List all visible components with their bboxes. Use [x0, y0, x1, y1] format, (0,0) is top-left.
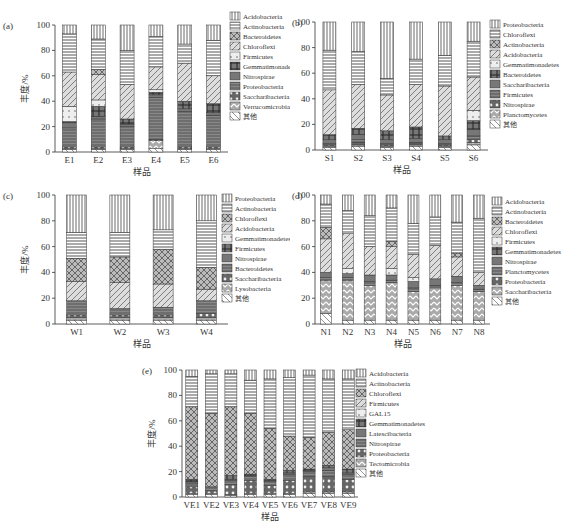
segment-其他 [186, 494, 198, 497]
segment-acidobacteria [178, 25, 192, 44]
x-axis-label: 样品 [133, 166, 151, 177]
bar-N3 [364, 195, 375, 324]
segment-其他 [149, 148, 163, 152]
legend-label: Chloroflexi [235, 215, 267, 223]
x-tick-label: S6 [469, 153, 479, 163]
bar-N7 [452, 195, 463, 324]
legend-label: 其他 [235, 294, 249, 303]
segment-chloroflexi [409, 59, 422, 85]
segment-其他 [205, 494, 217, 497]
legend-swatch [492, 197, 502, 205]
segment-acidobacteria [205, 370, 217, 374]
segment-planctomycetes [467, 142, 480, 145]
bar-N4 [386, 195, 397, 324]
legend-swatch [222, 254, 232, 262]
segment-actinobacteria [408, 223, 419, 254]
segment-其他 [264, 494, 276, 497]
legend-label: Gemmatimonadetes [235, 235, 290, 243]
segment-acidobacteria [244, 370, 256, 380]
panel-label: (e) [142, 366, 152, 376]
chart-panel-c: (c)020406080100丰度/%W1W2W3W4样品Proteobacte… [0, 180, 290, 362]
legend-label: Chloroflexi [369, 390, 401, 398]
segment-bacteroidetes [67, 301, 87, 315]
legend-swatch [490, 80, 500, 88]
segment-bacteroidetes [110, 309, 130, 315]
legend-label: Acidobacteria [369, 370, 409, 378]
segment-saccharibacteria [342, 280, 353, 320]
segment-acidobacteria [342, 370, 354, 379]
segment-saccharibacteria [381, 140, 394, 144]
segment-proteobacteria [323, 22, 336, 50]
segment-chloroflexi [153, 249, 173, 284]
segment-verrucomicrobia [149, 141, 163, 149]
legend-swatch [490, 50, 500, 58]
legend-label: Chloroflexi [503, 31, 535, 39]
x-tick-label: S4 [411, 153, 421, 163]
x-tick-label: N6 [430, 327, 441, 337]
y-tick-label: 40 [41, 96, 51, 106]
bar-E1 [62, 25, 76, 152]
segment-planctomycetes [386, 280, 397, 283]
segment-gemmatimonadetes [149, 92, 163, 95]
legend-label: Bacteroidetes [235, 265, 273, 273]
legend-label: Nitrospirae [369, 440, 401, 448]
segment-其他 [303, 493, 315, 497]
segment-其他 [381, 147, 394, 150]
y-tick-label: 20 [168, 467, 178, 477]
y-tick-label: 80 [41, 216, 51, 226]
legend-label: Actinobacteria [369, 380, 411, 388]
segment-gemmatimonadetes [91, 106, 105, 116]
x-tick-label: W4 [200, 327, 213, 337]
segment-bacteroidetes [352, 128, 365, 134]
y-tick-label: 60 [168, 416, 178, 426]
legend-swatch [230, 42, 240, 50]
legend-label: Proteobacteria [243, 83, 284, 91]
segment-acidobacteria [225, 370, 237, 374]
y-tick-label: 80 [168, 390, 178, 400]
segment-其他 [67, 320, 87, 324]
bar-S2 [352, 22, 365, 150]
legend-label: Saccharibacteria [503, 81, 550, 89]
legend-swatch [492, 287, 502, 295]
segment-chloroflexi [264, 428, 276, 479]
x-tick-label: VE6 [281, 500, 298, 510]
segment-nitrospirae [386, 275, 397, 280]
segment-proteobacteria [352, 22, 365, 51]
legend-label: Lysobacteria [235, 285, 272, 293]
segment-planctomycetes [320, 278, 331, 281]
segment-proteobacteria [186, 487, 198, 493]
x-tick-label: VE7 [301, 500, 318, 510]
legend-label: Bacteroidetes [505, 218, 543, 226]
y-tick-label: 80 [41, 45, 51, 55]
legend-swatch [222, 284, 232, 292]
y-tick-label: 60 [301, 242, 311, 252]
segment-acidobacteria [110, 283, 130, 309]
segment-其他 [91, 149, 105, 152]
segment-nitrospirae [225, 480, 237, 484]
legend-swatch [356, 399, 366, 407]
legend-label: GAL15 [369, 410, 391, 418]
y-tick-label: 20 [41, 122, 51, 132]
legend-swatch [356, 389, 366, 397]
segment-proteobacteria [438, 22, 451, 55]
segment-nitrospirae [364, 275, 375, 281]
segment-firmicutes [62, 106, 76, 121]
segment-acidobacteria [91, 25, 105, 39]
legend-swatch [492, 267, 502, 275]
segment-gemmatimonadetes [207, 104, 221, 113]
segment-gemmatimonadetes [120, 119, 134, 124]
segment-saccharibacteria [467, 130, 480, 136]
segment-actinobacteria [364, 216, 375, 247]
segment-chloroflexi [364, 247, 375, 275]
segment-nitrospirae [186, 483, 198, 487]
legend-label: Proteobacteria [369, 450, 410, 458]
legend-swatch [356, 419, 366, 427]
segment-chloroflexi [91, 75, 105, 100]
segment-acidobacteria [284, 370, 296, 378]
x-tick-label: VE8 [320, 500, 337, 510]
segment-其他 [430, 320, 441, 324]
legend-label: 其他 [505, 297, 519, 306]
x-axis-label: 样品 [393, 164, 411, 175]
segment-chloroflexi [323, 50, 336, 90]
legend-label: Chloroflexi [243, 43, 275, 51]
